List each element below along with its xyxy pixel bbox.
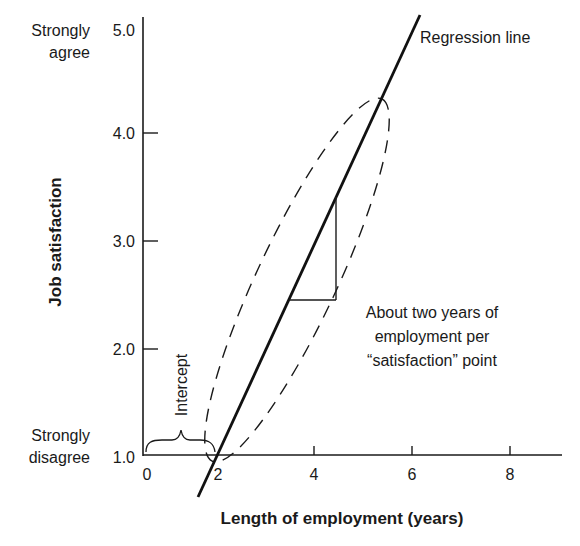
x-tick-label-8: 8 <box>506 466 515 483</box>
regression-line <box>198 15 420 497</box>
y-tick-label-3: 3.0 <box>113 233 135 250</box>
x-axis-title: Length of employment (years) <box>221 509 464 528</box>
strongly-agree-line2: agree <box>49 44 90 61</box>
y-tick-label-1: 1.0 <box>113 449 135 466</box>
y-axis-title: Job satisfaction <box>46 177 65 306</box>
x-tick-label-4: 4 <box>310 466 319 483</box>
x-tick-label-2: 2 <box>214 466 223 483</box>
x-tick-label-0: 0 <box>143 466 152 483</box>
y-axis-ticks <box>143 133 158 349</box>
x-axis-ticks <box>314 446 510 455</box>
strongly-agree-line1: Strongly <box>31 22 90 39</box>
regression-line-label: Regression line <box>420 29 530 46</box>
y-tick-label-2: 2.0 <box>113 341 135 358</box>
regression-chart: 5.0 4.0 3.0 2.0 1.0 Strongly agree Stron… <box>0 0 580 546</box>
strongly-disagree-line1: Strongly <box>31 427 90 444</box>
x-tick-label-6: 6 <box>408 466 417 483</box>
strongly-disagree-line2: disagree <box>29 449 90 466</box>
slope-note-line2: employment per <box>375 328 490 345</box>
y-tick-label-4: 4.0 <box>113 125 135 142</box>
slope-note-line3: “satisfaction” point <box>367 352 497 369</box>
slope-note-line1: About two years of <box>366 304 499 321</box>
y-tick-label-5: 5.0 <box>113 22 135 39</box>
intercept-label: Intercept <box>173 353 190 416</box>
